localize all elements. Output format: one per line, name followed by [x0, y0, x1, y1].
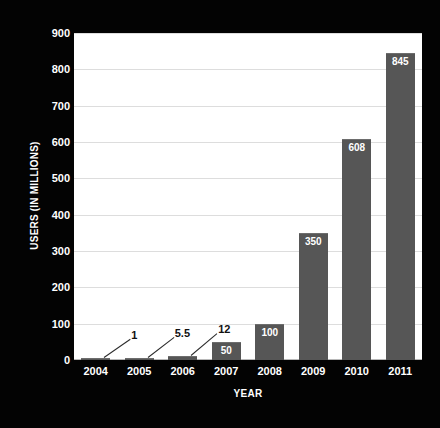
- x-tick-label: 2005: [118, 365, 162, 377]
- x-tick-label: 2004: [74, 365, 118, 377]
- gridline: [74, 69, 422, 70]
- y-tick-label: 200: [34, 282, 70, 293]
- x-axis-title: YEAR: [74, 388, 422, 399]
- y-tick-label: 500: [34, 173, 70, 184]
- x-tick-label: 2006: [161, 365, 205, 377]
- gridline: [74, 106, 422, 107]
- y-tick-label: 800: [34, 64, 70, 75]
- x-tick-label: 2011: [379, 365, 423, 377]
- bar-2009[interactable]: 350: [299, 233, 328, 360]
- bar-value-callout: 1: [131, 330, 137, 341]
- bar-2005[interactable]: [125, 358, 154, 360]
- gridline: [74, 33, 422, 34]
- x-axis-tick-labels: 20042005200620072008200920102011: [74, 365, 422, 381]
- y-tick-label: 700: [34, 101, 70, 112]
- x-tick-label: 2007: [205, 365, 249, 377]
- plot-area: 15.51250100350608845: [74, 33, 422, 360]
- y-tick-label: 600: [34, 137, 70, 148]
- bar-value-callout: 12: [218, 324, 230, 335]
- bar-callout-leader-line: [104, 339, 131, 358]
- bar-value-label: 608: [342, 142, 371, 153]
- bar-chart-figure: USERS (IN MILLIONS) 01002003004005006007…: [0, 0, 440, 428]
- x-tick-label: 2010: [335, 365, 379, 377]
- bar-value-label: 845: [386, 56, 415, 67]
- y-tick-label: 0: [34, 355, 70, 366]
- y-tick-label: 400: [34, 210, 70, 221]
- bar-2006[interactable]: [168, 356, 197, 360]
- bar-2011[interactable]: 845: [386, 53, 415, 360]
- bar-value-label: 50: [212, 345, 241, 356]
- bar-value-callout: 5.5: [175, 328, 190, 339]
- bar-2007[interactable]: 50: [212, 342, 241, 360]
- y-tick-label: 100: [34, 319, 70, 330]
- x-tick-label: 2009: [292, 365, 336, 377]
- bar-2008[interactable]: 100: [255, 324, 284, 360]
- y-axis-tick-labels: 0100200300400500600700800900: [34, 33, 70, 360]
- x-tick-label: 2008: [248, 365, 292, 377]
- y-tick-label: 900: [34, 28, 70, 39]
- bar-2010[interactable]: 608: [342, 139, 371, 360]
- bar-value-label: 350: [299, 236, 328, 247]
- bar-2004[interactable]: [81, 358, 110, 360]
- y-tick-label: 300: [34, 246, 70, 257]
- bar-value-label: 100: [255, 327, 284, 338]
